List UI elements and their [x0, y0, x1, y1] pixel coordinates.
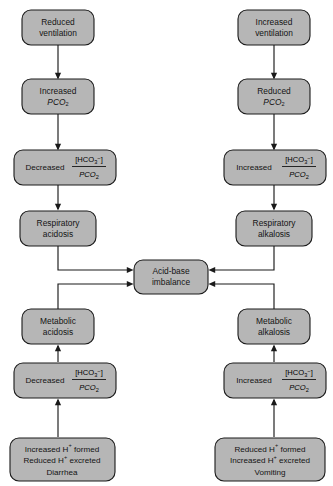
- node-increased-ratio-bottom-label: Increased: [236, 376, 272, 385]
- node-increased-ratio-bottom[interactable]: Increased [HCO3−] PCO2: [224, 363, 326, 398]
- node-reduced-pco2-line1: Reduced: [257, 86, 291, 96]
- node-metabolic-alkalosis-line1: Metabolic: [256, 316, 292, 326]
- node-decreased-ratio-top[interactable]: Decreased [HCO3−] PCO2: [14, 150, 116, 185]
- node-increased-pco2-line1: Increased: [40, 86, 77, 96]
- node-metabolic-acidosis[interactable]: Metabolic acidosis: [22, 309, 94, 344]
- node-metabolic-acidosis-causes-line2: Reduced H+ excreted: [23, 454, 100, 465]
- node-metabolic-alkalosis-causes-line1: Reduced H+ formed: [234, 443, 305, 454]
- edge-respiratory-alkalosis-to-imbalance: [208, 246, 274, 273]
- node-reduced-ventilation[interactable]: Reduced ventilation: [22, 10, 94, 45]
- node-respiratory-alkalosis-line1: Respiratory: [253, 218, 297, 228]
- edge-decreased-ratio-to-respiratory-acidosis: [55, 185, 61, 211]
- node-reduced-ventilation-line2: ventilation: [39, 28, 77, 38]
- edge-metabolic-acidosis-to-imbalance: [58, 281, 134, 309]
- node-respiratory-acidosis[interactable]: Respiratory acidosis: [20, 211, 96, 246]
- node-metabolic-alkalosis-causes-line3: Vomiting: [254, 468, 285, 477]
- edge-increased-pco2-to-decreased-ratio: [55, 114, 61, 151]
- node-metabolic-acidosis-causes-line3: Diarrhea: [46, 468, 78, 477]
- node-increased-ventilation[interactable]: Increased ventilation: [238, 10, 310, 45]
- edge-causes-to-decreased-ratio-bottom: [55, 398, 61, 437]
- node-decreased-ratio-top-label: Decreased: [25, 163, 64, 172]
- acid-base-imbalance-flowchart: Reduced ventilation Increased ventilatio…: [0, 0, 333, 486]
- node-metabolic-acidosis-causes-line1: Increased H+ formed: [25, 443, 99, 454]
- edge-reduced-ventilation-to-increased-pco2: [55, 45, 61, 80]
- node-respiratory-alkalosis-line2: alkalosis: [258, 229, 290, 239]
- edge-increased-ratio-bottom-to-metabolic-alkalosis: [271, 344, 277, 362]
- edge-decreased-ratio-bottom-to-metabolic-acidosis: [55, 344, 61, 362]
- edge-metabolic-alkalosis-to-imbalance: [208, 281, 274, 309]
- node-metabolic-alkalosis[interactable]: Metabolic alkalosis: [238, 309, 310, 344]
- node-respiratory-acidosis-line1: Respiratory: [37, 218, 81, 228]
- node-reduced-ventilation-line1: Reduced: [41, 17, 75, 27]
- edge-reduced-pco2-to-increased-ratio: [271, 114, 277, 151]
- node-metabolic-acidosis-line1: Metabolic: [40, 316, 76, 326]
- edge-causes-to-increased-ratio-bottom: [271, 398, 277, 437]
- node-reduced-pco2-formula: PCO2: [263, 97, 284, 107]
- edge-increased-ratio-to-respiratory-alkalosis: [271, 185, 277, 211]
- node-metabolic-alkalosis-line2: alkalosis: [258, 327, 290, 337]
- node-reduced-pco2[interactable]: Reduced PCO2: [238, 79, 310, 114]
- node-increased-ventilation-line1: Increased: [256, 17, 293, 27]
- node-increased-pco2[interactable]: Increased PCO2: [22, 79, 94, 114]
- node-respiratory-alkalosis[interactable]: Respiratory alkalosis: [236, 211, 312, 246]
- node-decreased-ratio-bottom[interactable]: Decreased [HCO3−] PCO2: [14, 363, 116, 398]
- edge-respiratory-acidosis-to-imbalance: [58, 246, 134, 273]
- node-increased-ratio-top[interactable]: Increased [HCO3−] PCO2: [224, 150, 326, 185]
- node-metabolic-acidosis-causes[interactable]: Increased H+ formed Reduced H+ excreted …: [10, 438, 115, 481]
- node-increased-ratio-top-label: Increased: [236, 163, 272, 172]
- node-acid-base-imbalance-line1: Acid-base: [152, 266, 190, 276]
- node-decreased-ratio-bottom-label: Decreased: [25, 376, 64, 385]
- node-respiratory-acidosis-line2: acidosis: [43, 229, 73, 239]
- node-increased-pco2-formula: PCO2: [47, 97, 68, 107]
- node-metabolic-alkalosis-causes-line2: Increased H+ excreted: [230, 454, 310, 465]
- node-metabolic-acidosis-line2: acidosis: [43, 327, 73, 337]
- node-increased-ventilation-line2: ventilation: [255, 28, 293, 38]
- node-acid-base-imbalance-line2: imbalance: [152, 277, 191, 287]
- node-acid-base-imbalance[interactable]: Acid-base imbalance: [134, 260, 208, 294]
- node-metabolic-alkalosis-causes[interactable]: Reduced H+ formed Increased H+ excreted …: [215, 438, 325, 481]
- edge-increased-ventilation-to-reduced-pco2: [271, 45, 277, 80]
